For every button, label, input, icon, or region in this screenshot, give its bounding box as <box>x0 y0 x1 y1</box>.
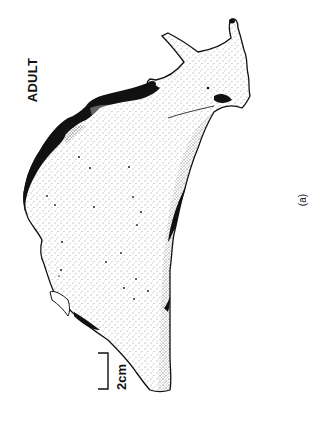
stage-label: ADULT <box>25 55 41 105</box>
head-tip <box>229 19 235 24</box>
rhinophore-tip <box>148 81 156 87</box>
scale-bar <box>98 353 108 389</box>
eye-spot <box>207 87 210 90</box>
specimen-illustration <box>0 0 327 421</box>
body-outline <box>24 19 250 392</box>
panel-label: (a) <box>297 187 309 213</box>
scale-bar-label: 2cm <box>114 360 128 394</box>
